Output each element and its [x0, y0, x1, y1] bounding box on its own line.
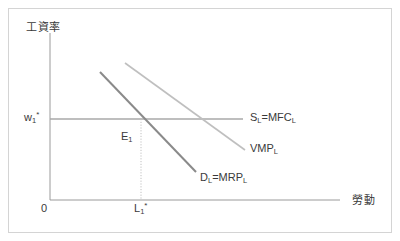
- vmp-subscript: L: [274, 147, 278, 156]
- y-axis-label: 工資率: [26, 22, 61, 33]
- labor-axis-label: L1*: [134, 203, 147, 214]
- mfc-subscript: L: [292, 116, 296, 125]
- diagram-screenshot: 工資率 勞動 0 w1* L1* E1 SL=MFCL VMPL DL=MRPL: [0, 0, 400, 241]
- diagram-plot: [0, 0, 400, 241]
- vmp-curve: [125, 63, 245, 150]
- wage-symbol: w: [24, 111, 32, 123]
- wage-axis-label: w1*: [24, 112, 39, 123]
- wage-superscript: *: [36, 110, 39, 119]
- equilibrium-subscript: 1: [128, 135, 132, 144]
- mrp-subscript: L: [243, 176, 247, 185]
- equilibrium-point-label: E1: [121, 131, 133, 142]
- x-axis-label: 勞動: [352, 195, 375, 206]
- supply-subscript: L: [257, 116, 261, 125]
- demand-mrp-curve: [100, 72, 196, 172]
- origin-label: 0: [41, 203, 47, 214]
- mrp-symbol: MRP: [219, 171, 243, 183]
- demand-symbol: D: [200, 171, 208, 183]
- supply-mfc-curve-label: SL=MFCL: [250, 112, 296, 123]
- demand-subscript: L: [208, 176, 212, 185]
- labor-superscript: *: [144, 201, 147, 210]
- demand-mrp-curve-label: DL=MRPL: [200, 172, 247, 183]
- vmp-curve-label: VMPL: [250, 143, 278, 154]
- mfc-symbol: MFC: [268, 111, 292, 123]
- vmp-symbol: VMP: [250, 142, 274, 154]
